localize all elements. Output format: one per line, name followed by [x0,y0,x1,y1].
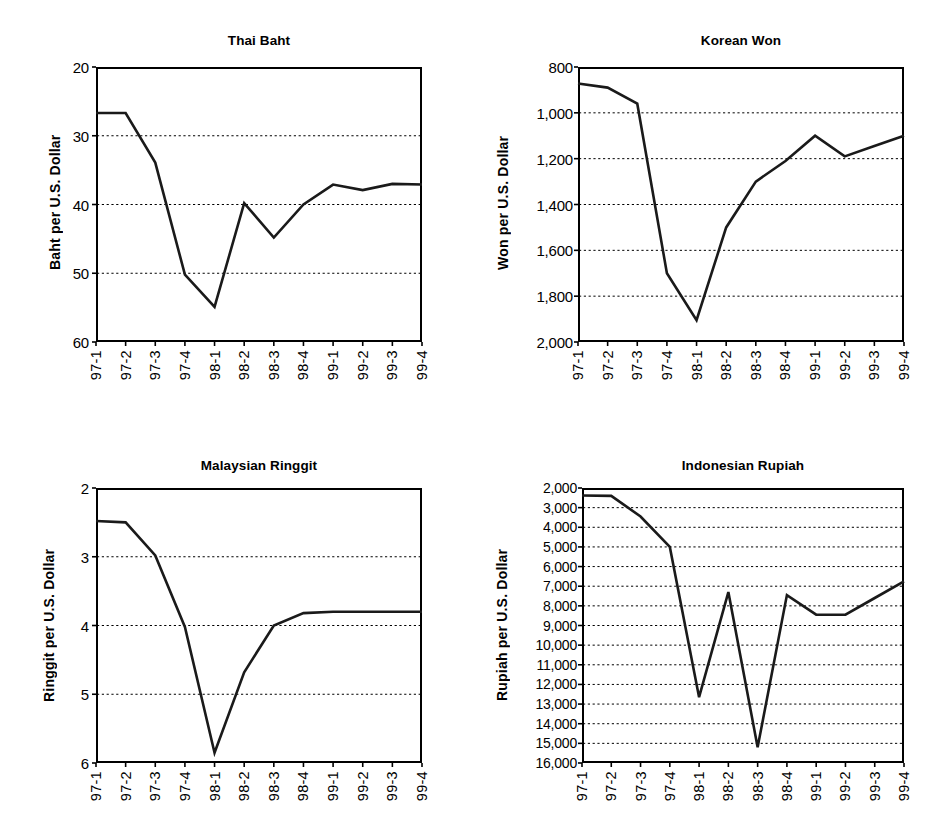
x-tick-label: 97-1 [574,771,590,801]
x-tick-label: 98-2 [720,771,736,801]
currency-charts-figure: Thai BahtBaht per U.S. Dollar20304050609… [0,0,937,829]
y-tick-label: 5,000 [543,539,577,555]
y-tick-label: 3,000 [543,500,577,516]
y-tick-label: 12,000 [535,676,577,692]
y-tick-label: 4,000 [543,519,577,535]
x-tick-label: 98-3 [750,771,766,801]
chart-canvas-indonesian-rupiah [0,0,937,829]
x-tick-label: 98-4 [779,771,795,801]
y-tick-label: 16,000 [535,755,577,771]
y-tick-label: 13,000 [535,696,577,712]
x-tick-label: 99-4 [896,771,912,801]
y-tick-label: 14,000 [535,716,577,732]
y-tick-label: 7,000 [543,578,577,594]
data-series-indonesian-rupiah [582,495,904,747]
x-tick-label: 98-1 [691,771,707,801]
x-tick-label: 97-4 [662,771,678,801]
y-tick-label: 2,000 [543,480,577,496]
x-tick-label: 97-2 [603,771,619,801]
y-tick-label: 11,000 [536,657,577,673]
y-tick-label: 8,000 [543,598,577,614]
y-tick-label: 9,000 [543,618,577,634]
x-tick-label: 97-3 [633,771,649,801]
x-tick-label: 99-3 [867,771,883,801]
x-tick-label: 99-1 [808,771,824,801]
y-tick-label: 10,000 [535,637,577,653]
x-tick-label: 99-2 [837,771,853,801]
chart-panel-indonesian-rupiah: Indonesian RupiahRupiah per U.S. Dollar2… [0,0,937,829]
y-tick-label: 15,000 [535,735,577,751]
y-tick-label: 6,000 [543,559,577,575]
